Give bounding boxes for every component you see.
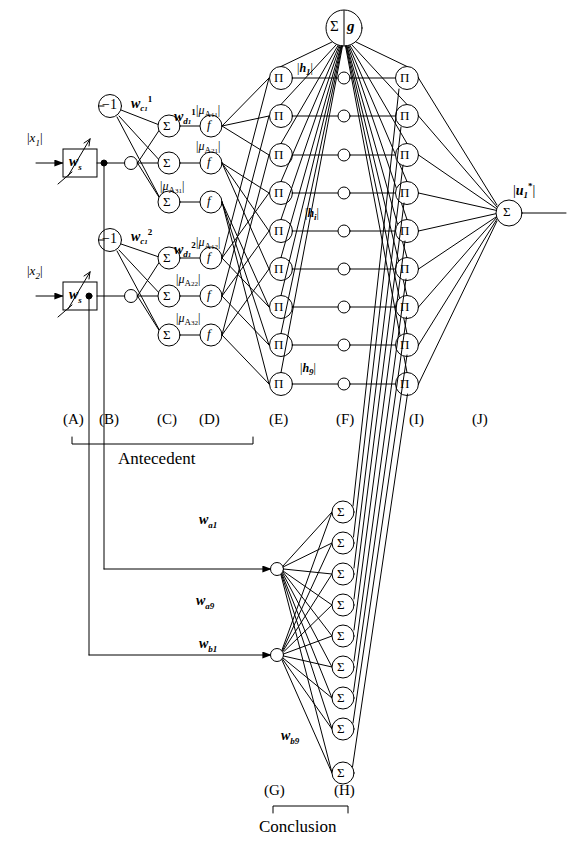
f-glyph-a32: f	[207, 327, 211, 340]
membership-label-a22: |μA22|	[176, 273, 200, 288]
input-2-signal: |x2|	[27, 264, 43, 281]
conclusion-glyph-4: Σ	[337, 598, 345, 611]
prod-glyph-f-6: Π	[274, 262, 283, 275]
sum-glyph-c11: Σ	[163, 119, 171, 132]
sum-glyph-c32: Σ	[163, 328, 171, 341]
prod-glyph-f-8: Π	[274, 338, 283, 351]
f-glyph-a11: f	[207, 118, 211, 131]
bias-node-1-label: −1	[102, 98, 117, 112]
weight-b9-label: wb9	[281, 729, 299, 746]
prod-glyph-f-9: Π	[274, 377, 283, 390]
column-label-b: (B)	[99, 412, 119, 427]
sum-glyph-c21: Σ	[163, 156, 171, 169]
h-tap-2	[338, 110, 350, 122]
column-label-h: (H)	[334, 783, 355, 798]
prod-glyph-i-8: Π	[400, 338, 409, 351]
weight-b1-label: wb1	[199, 637, 217, 654]
prod-glyph-f-7: Π	[274, 300, 283, 313]
input-1-gain-label: ws	[69, 155, 82, 172]
input-1-wire	[36, 139, 138, 184]
weight-a9-label: wa9	[196, 594, 214, 611]
norm-sum-glyph: Σ	[330, 19, 339, 34]
f-node-a32	[200, 324, 222, 346]
f-glyph-a22: f	[207, 288, 211, 301]
sum-glyph-c31: Σ	[163, 195, 171, 208]
weight-a1-label: wa1	[199, 513, 217, 530]
column-label-i: (I)	[409, 412, 424, 427]
weight-c1-label: wc11	[131, 95, 152, 113]
column-label-g: (G)	[264, 783, 285, 798]
prod-glyph-i-2: Π	[400, 109, 409, 122]
output-signal-label: |u1*|	[513, 182, 535, 200]
prod-glyph-i-1: Π	[400, 71, 409, 84]
prod-glyph-f-3: Π	[274, 148, 283, 161]
h-tap-3	[338, 149, 350, 161]
prod-glyph-f-4: Π	[274, 186, 283, 199]
conclusion-glyph-6: Σ	[337, 660, 345, 673]
input-1-fan	[117, 110, 162, 202]
prod-glyph-i-6: Π	[400, 262, 409, 275]
prod-glyph-f-2: Π	[274, 109, 283, 122]
column-label-d: (D)	[199, 412, 220, 427]
f-node-a31	[200, 191, 222, 213]
input-2-gain-label: ws	[69, 288, 82, 305]
antecedent-caption: Antecedent	[118, 450, 195, 467]
firing-strength-label-i: |hi|	[305, 207, 319, 222]
conclusion-glyph-1: Σ	[337, 505, 345, 518]
column-label-f: (F)	[336, 412, 354, 427]
firing-strength-label-9: |h9|	[300, 362, 316, 377]
conclusion-bracket	[273, 806, 348, 813]
input-2-fan	[117, 244, 162, 335]
weight-d1-label: wd11	[174, 108, 196, 126]
prod-glyph-i-5: Π	[400, 224, 409, 237]
prod-glyph-i-9: Π	[400, 377, 409, 390]
conclusion-glyph-8: Σ	[337, 722, 345, 735]
h-tap-5	[338, 225, 350, 237]
h-tap-9	[338, 378, 350, 390]
input-2-wire	[36, 272, 138, 317]
conclusion-glyph-3: Σ	[337, 567, 345, 580]
prod-glyph-f-5: Π	[274, 224, 283, 237]
input-1-signal: |x1|	[27, 131, 43, 148]
weight-d2-label: wd12	[174, 241, 196, 259]
f-node-a22	[200, 285, 222, 307]
conclusion-glyph-2: Σ	[337, 536, 345, 549]
prod-glyph-f-1: Π	[274, 71, 283, 84]
sum-glyph-c12: Σ	[163, 251, 171, 264]
prod-glyph-i-7: Π	[400, 300, 409, 313]
output-edges	[419, 78, 500, 384]
h-tap-6	[338, 263, 350, 275]
rule-layer-edges	[222, 78, 269, 384]
antecedent-bracket	[72, 437, 253, 444]
bias-node-2-label: −1	[102, 232, 117, 246]
conclusion-hub-a	[271, 563, 284, 576]
column-label-e: (E)	[269, 412, 288, 427]
prod-glyph-i-3: Π	[400, 148, 409, 161]
f-glyph-a21: f	[207, 155, 211, 168]
membership-label-a32: |μA32|	[176, 312, 200, 327]
column-label-j: (J)	[472, 412, 488, 427]
column-label-c: (C)	[157, 412, 177, 427]
h-tap-4	[338, 187, 350, 199]
f-glyph-a31: f	[207, 194, 211, 207]
figure-canvas: |x1| |x2| ws ws −1 −1 wc11 wd11 wc12 wd1…	[0, 0, 571, 846]
norm-g-glyph: g	[347, 19, 355, 34]
h-tap-1	[338, 72, 350, 84]
conclusion-hub-b	[271, 649, 284, 662]
output-sum-glyph: Σ	[503, 205, 511, 218]
prod-glyph-i-4: Π	[400, 186, 409, 199]
firing-strength-label-1: |h1|	[297, 62, 313, 77]
h-tap-8	[338, 339, 350, 351]
sum-glyph-c22: Σ	[163, 289, 171, 302]
conclusion-glyph-5: Σ	[337, 629, 345, 642]
column-label-a: (A)	[63, 412, 84, 427]
weight-c2-label: wc12	[131, 228, 152, 246]
h-tap-7	[338, 301, 350, 313]
f-glyph-a12: f	[207, 250, 211, 263]
conclusion-glyph-7: Σ	[337, 691, 345, 704]
conclusion-glyph-9: Σ	[337, 766, 345, 779]
conclusion-caption: Conclusion	[259, 818, 336, 835]
